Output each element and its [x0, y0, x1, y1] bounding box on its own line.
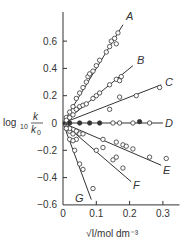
data-point-A [114, 42, 118, 46]
data-point-G [71, 139, 75, 143]
y-axis-label-base: 10 [20, 123, 28, 130]
y-tick-label: 0.2 [43, 90, 57, 101]
data-point-A [94, 63, 98, 67]
data-point-B [97, 91, 101, 95]
data-point-F [101, 145, 105, 149]
x-tick-label: 0.2 [123, 208, 137, 219]
y-tick-label: 0.4 [43, 63, 57, 74]
y-axis-label: log 10 k k 0 [3, 111, 43, 136]
data-point-A [77, 91, 81, 95]
x-axis-label: √I/mol dm⁻³ [86, 228, 139, 239]
data-point-D [97, 121, 101, 125]
data-point-B [107, 83, 111, 87]
fit-line-C [63, 85, 161, 123]
data-point-E [81, 132, 85, 136]
x-tick-label: 0.1 [89, 208, 103, 219]
data-point-D [87, 121, 91, 125]
data-point-A [107, 44, 111, 48]
chart: −0.6−0.4−0.200.20.40.600.10.20.3 ABCDEFG… [0, 0, 184, 251]
data-point-B [84, 102, 88, 106]
y-axis-label-k: k [33, 111, 39, 122]
data-point-E [131, 147, 135, 151]
data-point-D [77, 121, 81, 125]
data-point-F [71, 132, 75, 136]
data-point-E [147, 155, 151, 159]
y-tick-label: 0.6 [43, 36, 57, 47]
data-point-A [112, 36, 116, 40]
y-tick-label: −0.4 [37, 172, 57, 183]
data-point-A [116, 31, 120, 35]
line-label-A: A [125, 10, 133, 22]
x-tick-label: 0.3 [156, 208, 170, 219]
data-point-D [67, 121, 71, 125]
data-point-G [77, 162, 81, 166]
data-point-F [114, 155, 118, 159]
line-label-B: B [137, 54, 144, 66]
y-tick-label: 0 [51, 118, 57, 129]
data-point-B [119, 74, 123, 78]
data-point-D [147, 121, 151, 125]
data-point-D [131, 121, 135, 125]
data-point-A [104, 50, 108, 54]
y-axis-label-log: log [3, 117, 16, 128]
data-point-G [64, 126, 68, 130]
data-points [64, 31, 168, 191]
data-point-F [121, 166, 125, 170]
data-point-A [81, 85, 85, 89]
line-label-G: G [75, 192, 84, 204]
y-axis-label-k0-sub: 0 [37, 129, 41, 136]
data-point-D [137, 119, 141, 123]
data-point-C [157, 85, 161, 89]
x-tick-label: 0 [60, 208, 66, 219]
data-point-D [117, 121, 121, 125]
data-point-A [74, 96, 78, 100]
data-point-B [71, 113, 75, 117]
data-point-C [134, 94, 138, 98]
data-point-E [101, 137, 105, 141]
data-point-E [164, 156, 168, 160]
line-label-E: E [163, 164, 171, 176]
line-label-C: C [165, 76, 173, 88]
data-point-A [97, 58, 101, 62]
line-label-D: D [165, 117, 173, 129]
data-point-F [94, 148, 98, 152]
data-point-C [117, 95, 121, 99]
data-point-C [107, 107, 111, 111]
axes: −0.6−0.4−0.200.20.40.600.10.20.3 [37, 12, 179, 219]
data-point-E [114, 140, 118, 144]
data-point-D [111, 121, 115, 125]
data-point-E [124, 144, 128, 148]
y-tick-label: −0.6 [37, 199, 57, 210]
data-point-A [84, 80, 88, 84]
data-point-G [81, 167, 85, 171]
line-label-F: F [133, 179, 141, 191]
y-tick-label: −0.2 [37, 145, 57, 156]
data-point-G [91, 186, 95, 190]
data-point-G [72, 148, 76, 152]
data-point-A [91, 69, 95, 73]
fit-lines [63, 25, 163, 200]
